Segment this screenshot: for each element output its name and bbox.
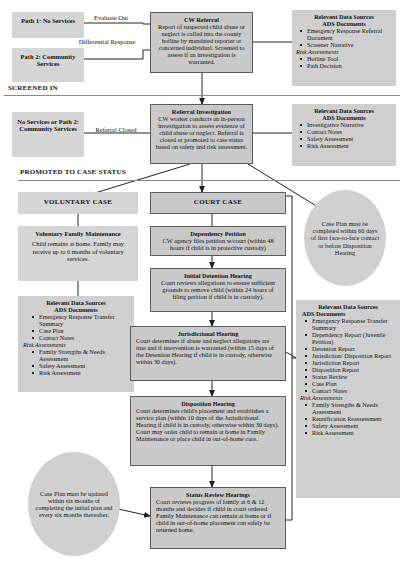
- node-path-2-title: Path 2: Community Services: [12, 53, 84, 68]
- list-item: Risk Assessment: [307, 142, 392, 149]
- node-cw-referral-title: CW Referral: [155, 16, 248, 23]
- list-item: Safety Assessment: [307, 135, 392, 142]
- node-disposition-hearing[interactable]: Disposition Hearing Court determines chi…: [130, 396, 286, 466]
- node-path-1-title: Path 1: No Services: [12, 17, 84, 24]
- node-initial-detention-hearing[interactable]: Initial Detention Hearing Court reviews …: [150, 268, 286, 312]
- list-item: Safety Assessment: [312, 422, 396, 429]
- node-dependency-petition-body: CW agency files petition w/court (within…: [156, 237, 280, 251]
- node-referral-investigation-title: Referral Investigation: [155, 108, 248, 115]
- callout-case-plan-updated-text: Case Plan must be updated within six mon…: [34, 490, 114, 518]
- list-item: Risk Assessment: [39, 369, 129, 376]
- list-item: Contact Notes: [307, 128, 392, 135]
- node-disposition-title: Disposition Hearing: [136, 400, 280, 407]
- list-item: Emergency Response Transfer Summary: [39, 313, 129, 327]
- panel-voluntary-documents: Emergency Response Transfer Summary Case…: [23, 313, 129, 341]
- list-item: Emergency Response Transfer Summary: [312, 317, 396, 331]
- panel-court-heading: Relevant Data Sources: [300, 303, 396, 310]
- panel-investigation-subheading: ADS Documents: [296, 114, 392, 121]
- panel-referral-data-sources: Relevant Data Sources ADS Documents Emer…: [292, 10, 396, 86]
- node-no-services-title: No Services or Path 2: Community Service…: [12, 118, 84, 133]
- node-voluntary-case-title: VOLUNTARY CASE: [18, 198, 138, 206]
- list-item: Hotline Tool: [307, 55, 392, 62]
- divider-line-1: [4, 95, 400, 96]
- node-dependency-petition[interactable]: Dependency Petition CW agency files peti…: [150, 226, 286, 256]
- list-item: Family Strengths & Needs Assessment: [39, 348, 129, 362]
- panel-referral-risk-items: Hotline Tool Path Decision: [296, 55, 392, 69]
- list-item: Risk Assessment: [312, 429, 396, 436]
- node-vfm-title: Voluntary Family Maintenance: [24, 230, 132, 237]
- panel-referral-heading: Relevant Data Sources: [296, 13, 392, 20]
- node-no-services[interactable]: No Services or Path 2: Community Service…: [12, 112, 84, 157]
- node-cw-referral[interactable]: CW Referral Report of suspected child ab…: [150, 12, 253, 73]
- panel-investigation-documents: Investigative Narrative Contact Notes Sa…: [296, 121, 392, 149]
- node-path-1[interactable]: Path 1: No Services: [12, 12, 84, 38]
- node-initial-detention-title: Initial Detention Hearing: [156, 272, 280, 279]
- node-jurisdictional-hearing[interactable]: Jurisdictional Hearing Court determines …: [130, 326, 286, 381]
- panel-referral-risk-label: Risk Assessments: [296, 48, 392, 55]
- divider-label-promoted: PROMOTED TO CASE STATUS: [20, 168, 126, 176]
- list-item: Investigative Narrative: [307, 121, 392, 128]
- list-item: Contact Notes: [312, 387, 396, 394]
- node-vfm-body: Child remains at home. Family may receiv…: [24, 240, 132, 262]
- node-jurisdictional-title: Jurisdictional Hearing: [136, 330, 280, 337]
- divider-label-screened-in: SCREENED IN: [8, 84, 58, 92]
- list-item: Screener Narrative: [307, 41, 392, 48]
- list-item: Contact Notes: [39, 334, 129, 341]
- list-item: Case Plan: [39, 327, 129, 334]
- panel-court-documents: Emergency Response Transfer Summary Depe…: [300, 317, 396, 394]
- edge-label-differential-response: Differential Response: [76, 38, 138, 45]
- panel-voluntary-heading: Relevant Data Sources: [23, 299, 129, 306]
- panel-voluntary-risk-label: Risk Assessments: [23, 341, 129, 348]
- node-disposition-body: Court determines child's placement and e…: [136, 407, 280, 442]
- node-court-case[interactable]: COURT CASE: [150, 192, 286, 214]
- callout-case-plan-completed: Case Plan must be completed within 60 da…: [304, 190, 386, 286]
- node-voluntary-case[interactable]: VOLUNTARY CASE: [18, 192, 138, 214]
- panel-investigation-data-sources: Relevant Data Sources ADS Documents Inve…: [292, 104, 396, 166]
- node-status-review-title: Status Review Hearings: [156, 491, 280, 498]
- list-item: Family Strengths & Needs Assessment: [312, 401, 396, 415]
- edge-label-evaluate-out: Evaluate Out: [78, 14, 144, 21]
- panel-investigation-heading: Relevant Data Sources: [296, 107, 392, 114]
- divider-line-2: [18, 180, 400, 181]
- list-item: Jurisdiction Report: [312, 359, 396, 366]
- flowchart-canvas: Path 1: No Services Path 2: Community Se…: [0, 0, 404, 567]
- panel-court-subheading: ADS Documents: [300, 310, 396, 317]
- node-status-review-body: Court reviews progress of family at 6 & …: [156, 498, 280, 533]
- node-referral-investigation-body: CW worker conducts an in-person investig…: [155, 115, 248, 150]
- node-jurisdictional-body: Court determines if abuse and neglect al…: [136, 337, 280, 365]
- panel-voluntary-subheading: ADS Documents: [23, 306, 129, 313]
- panel-court-risk-label: Risk Assessments: [300, 394, 396, 401]
- node-voluntary-family-maintenance[interactable]: Voluntary Family Maintenance Child remai…: [18, 226, 138, 281]
- list-item: Status Review: [312, 373, 396, 380]
- panel-voluntary-data-sources: Relevant Data Sources ADS Documents Emer…: [18, 296, 134, 392]
- list-item: Jurisdiction/ Disposition Report: [312, 352, 396, 359]
- list-item: Case Plan: [312, 380, 396, 387]
- list-item: Reunification Reassessment: [312, 415, 396, 422]
- node-initial-detention-body: Court reviews allegations to ensure suff…: [156, 279, 280, 300]
- callout-case-plan-updated: Case Plan must be updated within six mon…: [28, 452, 120, 556]
- panel-referral-documents: Emergency Response Referral Document Scr…: [296, 27, 392, 48]
- list-item: Path Decision: [307, 62, 392, 69]
- list-item: Safety Assessment: [39, 362, 129, 369]
- list-item: Dependency Report (Juvenile Petition): [312, 331, 396, 345]
- node-court-case-title: COURT CASE: [151, 199, 285, 207]
- list-item: Detention Report: [312, 345, 396, 352]
- list-item: Disposition Report: [312, 366, 396, 373]
- node-referral-investigation[interactable]: Referral Investigation CW worker conduct…: [150, 104, 253, 164]
- panel-court-data-sources: Relevant Data Sources ADS Documents Emer…: [296, 300, 400, 498]
- edge-label-referral-closed: Referral Closed: [84, 126, 148, 133]
- node-status-review-hearings[interactable]: Status Review Hearings Court reviews pro…: [150, 487, 286, 549]
- node-path-2[interactable]: Path 2: Community Services: [12, 48, 84, 82]
- panel-voluntary-risk-items: Family Strengths & Needs Assessment Safe…: [23, 348, 129, 376]
- list-item: Emergency Response Referral Document: [307, 27, 392, 41]
- node-cw-referral-body: Report of suspected child abuse or negle…: [155, 23, 248, 65]
- panel-referral-subheading: ADS Documents: [296, 20, 392, 27]
- callout-case-plan-completed-text: Case Plan must be completed within 60 da…: [310, 220, 380, 255]
- node-dependency-petition-title: Dependency Petition: [156, 230, 280, 237]
- panel-court-risk-items: Family Strengths & Needs Assessment Reun…: [300, 401, 396, 436]
